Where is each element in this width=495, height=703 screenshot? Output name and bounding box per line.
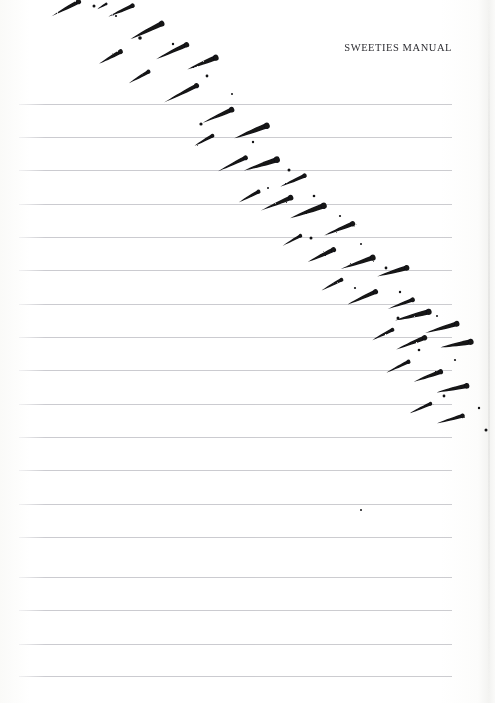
rule-line [19, 304, 452, 305]
page-title: SWEETIES MANUAL [0, 42, 452, 53]
rule-line [19, 610, 452, 611]
rule-line [19, 370, 452, 371]
rule-line [19, 204, 452, 205]
rule-line [19, 470, 452, 471]
rule-line [19, 404, 452, 405]
rule-line [19, 577, 452, 578]
rule-line [19, 437, 452, 438]
rule-line [19, 137, 452, 138]
rule-line [19, 170, 452, 171]
rule-line [19, 270, 452, 271]
rule-line [19, 237, 452, 238]
rule-line [19, 104, 452, 105]
ruled-lines [0, 0, 495, 703]
rule-line [19, 504, 452, 505]
rule-line [19, 676, 452, 677]
rule-line [19, 537, 452, 538]
notebook-page: SWEETIES MANUAL [0, 0, 495, 703]
rule-line [19, 644, 452, 645]
rule-line [19, 337, 452, 338]
